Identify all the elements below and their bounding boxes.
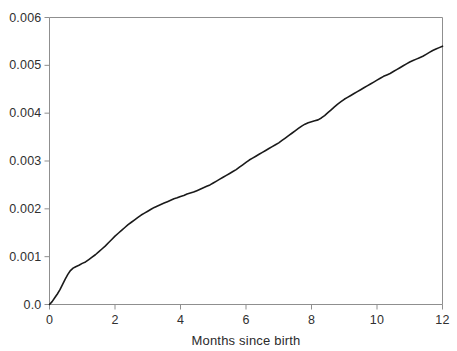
y-tick-marks xyxy=(45,18,50,305)
x-tick-label: 4 xyxy=(177,313,184,327)
plot-canvas xyxy=(0,0,457,351)
x-tick-marks xyxy=(50,305,443,310)
y-tick-label: 0.003 xyxy=(9,154,41,168)
x-tick-label: 2 xyxy=(111,313,118,327)
y-tick-label: 0.002 xyxy=(9,202,41,216)
axes-frame xyxy=(50,18,443,305)
y-tick-label: 0.005 xyxy=(9,58,41,72)
x-axis-title: Months since birth xyxy=(191,333,300,348)
y-tick-label: 0.0 xyxy=(24,298,42,312)
x-tick-label: 0 xyxy=(46,313,53,327)
x-tick-label: 12 xyxy=(435,313,449,327)
chart-figure: 0.00.0010.0020.0030.0040.0050.006 024681… xyxy=(0,0,457,351)
y-tick-label: 0.001 xyxy=(9,250,41,264)
x-tick-label: 10 xyxy=(370,313,384,327)
y-tick-label: 0.004 xyxy=(9,106,41,120)
data-series-line xyxy=(50,46,443,304)
plot-frame xyxy=(50,18,443,305)
y-tick-label: 0.006 xyxy=(9,11,41,25)
x-tick-label: 8 xyxy=(308,313,315,327)
x-tick-label: 6 xyxy=(242,313,249,327)
